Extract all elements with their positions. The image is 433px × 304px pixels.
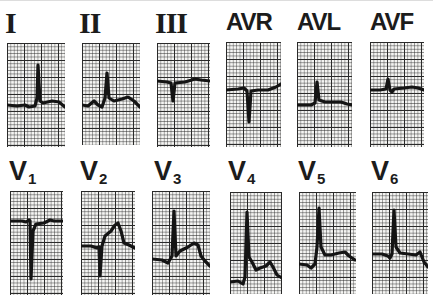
ecg-strip-v6 (372, 192, 428, 294)
lead-label-v4: V4 (228, 158, 255, 186)
ecg-strip-v5 (299, 192, 356, 294)
lead-label-avf: AVF (370, 10, 413, 34)
ecg-trace-v3 (152, 211, 210, 266)
lead-label-ii: II (79, 8, 100, 38)
ecg-trace-avr (226, 84, 281, 122)
ecg-strip-iii (157, 43, 210, 147)
ecg-strip-avr (226, 42, 281, 147)
ecg-strip-v3 (152, 191, 210, 295)
ecg-trace-iii (157, 79, 210, 101)
lead-label-v2: V2 (80, 158, 107, 186)
ecg-strip-v2 (81, 191, 135, 295)
ecg-trace-v1 (10, 220, 63, 279)
ecg-trace-ii (82, 73, 140, 107)
ecg-trace-avl (297, 82, 352, 105)
page-edge (0, 0, 433, 1)
ecg-trace-v2 (81, 223, 135, 276)
ecg-strip-ii (82, 43, 140, 145)
lead-label-iii: III (155, 8, 187, 38)
lead-label-v5: V5 (298, 158, 325, 186)
lead-label-v6: V6 (371, 158, 398, 186)
ecg-trace-v6 (372, 210, 428, 267)
lead-label-avr: AVR (226, 10, 272, 34)
lead-label-i: I (5, 8, 16, 38)
lead-label-v3: V3 (154, 158, 181, 186)
ecg-strip-v1 (10, 191, 63, 295)
lead-label-avl: AVL (297, 10, 340, 34)
ecg-trace-v4 (230, 212, 282, 284)
ecg-trace-i (7, 65, 65, 107)
ecg-trace-v5 (299, 208, 355, 268)
ecg-strip-avf (370, 42, 424, 147)
lead-label-v1: V1 (9, 158, 36, 186)
ecg-trace-avf (370, 79, 424, 92)
ecg-strip-v4 (230, 192, 282, 294)
ecg-strip-avl (297, 42, 352, 147)
ecg-strip-i (7, 43, 65, 147)
